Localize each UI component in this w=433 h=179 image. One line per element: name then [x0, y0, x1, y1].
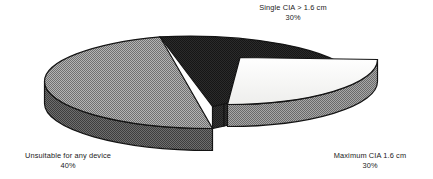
slice-label-unsuitable-percent: 40% [8, 161, 128, 171]
slice-label-maximum-text: Maximum CIA 1.6 cm [334, 151, 406, 160]
slice-label-maximum-percent: 30% [310, 161, 430, 171]
pie-chart: Single CIA > 1.6 cm 30% Unsuitable for a… [0, 0, 433, 179]
slice-single-side-gap [213, 104, 225, 129]
slice-label-maximum: Maximum CIA 1.6 cm 30% [310, 151, 430, 171]
slice-label-single-percent: 30% [193, 13, 393, 23]
slice-label-unsuitable: Unsuitable for any device 40% [8, 151, 128, 171]
slice-label-single: Single CIA > 1.6 cm 30% [193, 3, 393, 23]
slice-label-single-text: Single CIA > 1.6 cm [259, 3, 326, 12]
slice-maximum [228, 58, 378, 127]
slice-label-unsuitable-text: Unsuitable for any device [25, 151, 111, 160]
